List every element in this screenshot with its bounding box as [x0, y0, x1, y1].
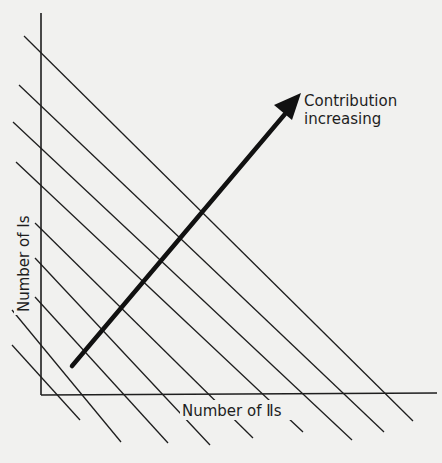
iso-contribution-diagram: Contribution increasing Number of Ⅱs Num… — [0, 0, 442, 463]
iso-line — [13, 122, 352, 440]
contribution-arrow-head-icon — [274, 93, 301, 120]
iso-line — [12, 345, 80, 420]
contribution-arrow-shaft — [72, 114, 285, 366]
arrow-label-line1: Contribution — [304, 92, 397, 110]
x-axis-label: Number of Ⅱs — [182, 402, 282, 420]
iso-line — [35, 297, 168, 443]
arrow-label-line2: increasing — [304, 110, 381, 128]
iso-line — [19, 85, 384, 432]
x-axis — [41, 393, 437, 395]
y-axis-label: Number of Is — [15, 215, 33, 312]
